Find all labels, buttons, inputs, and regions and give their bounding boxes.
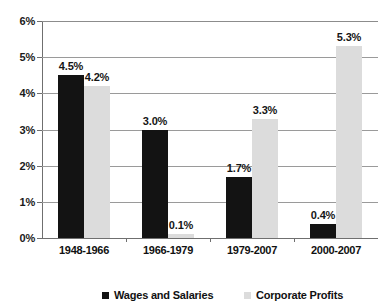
legend-item[interactable]: Wages and Salaries	[102, 288, 213, 302]
y-axis-tick-label: 4%	[20, 88, 36, 99]
legend-item[interactable]: Corporate Profits	[244, 288, 343, 302]
legend-label: Corporate Profits	[256, 290, 343, 301]
bar-value-label: 0.1%	[164, 220, 198, 231]
x-axis-tick-mark	[126, 238, 127, 242]
gridline	[42, 21, 378, 22]
y-axis-tick-label: 6%	[20, 16, 36, 27]
bar-value-label: 3.0%	[138, 116, 172, 127]
gridline	[42, 57, 378, 58]
x-axis-category-label: 1966-1979	[126, 245, 210, 256]
square-marker-gray	[244, 292, 251, 299]
y-axis-labels: 0%1%2%3%4%5%6%	[0, 0, 42, 307]
x-axis-tick-mark	[294, 238, 295, 242]
bar-wages-and-salaries	[310, 224, 336, 238]
bar-chart: 0%1%2%3%4%5%6% 4.5%4.2%3.0%0.1%1.7%3.3%0…	[0, 0, 390, 307]
y-axis-tick-label: 0%	[20, 233, 36, 244]
bar-value-label: 3.3%	[248, 105, 282, 116]
bar-wages-and-salaries	[226, 177, 252, 238]
x-axis-category-label: 1948-1966	[42, 245, 126, 256]
y-axis-tick-label: 1%	[20, 196, 36, 207]
bar-corporate-profits	[252, 119, 278, 238]
bar-value-label: 0.4%	[306, 210, 340, 221]
plot-area: 4.5%4.2%3.0%0.1%1.7%3.3%0.4%5.3%	[42, 21, 378, 238]
chart-legend: Wages and SalariesCorporate Profits	[0, 288, 390, 304]
bar-value-label: 4.2%	[80, 72, 114, 83]
y-axis-tick-label: 3%	[20, 124, 36, 135]
bar-value-label: 5.3%	[332, 32, 366, 43]
legend-label: Wages and Salaries	[114, 290, 213, 301]
bar-wages-and-salaries	[58, 75, 84, 238]
bar-value-label: 4.5%	[54, 61, 88, 72]
bar-corporate-profits	[336, 46, 362, 238]
x-axis-category-label: 2000-2007	[294, 245, 378, 256]
x-axis-category-label: 1979-2007	[210, 245, 294, 256]
bar-corporate-profits	[84, 86, 110, 238]
bar-value-label: 1.7%	[222, 163, 256, 174]
y-axis-tick-label: 2%	[20, 160, 36, 171]
square-marker-black	[102, 292, 109, 299]
y-axis-tick-label: 5%	[20, 52, 36, 63]
x-axis-tick-mark	[210, 238, 211, 242]
